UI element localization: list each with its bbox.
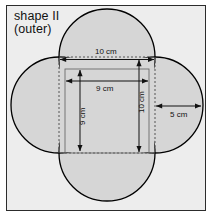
figure-panel: shape II (outer) 10 cm 9 cm 9 cm 10 cm 5… — [0, 0, 214, 218]
label-outer-square-top: 10 cm — [95, 47, 117, 56]
label-inner-square-vertical: 9 cm — [78, 108, 87, 125]
figure-title-line-1: shape II — [14, 9, 59, 23]
label-outer-square-vertical: 10 cm — [137, 91, 146, 113]
figure-title-line-2: (outer) — [14, 22, 52, 36]
label-inner-square-horizontal: 9 cm — [96, 84, 113, 93]
label-circle-radius: 5 cm — [170, 110, 187, 119]
petal-group — [11, 9, 203, 201]
